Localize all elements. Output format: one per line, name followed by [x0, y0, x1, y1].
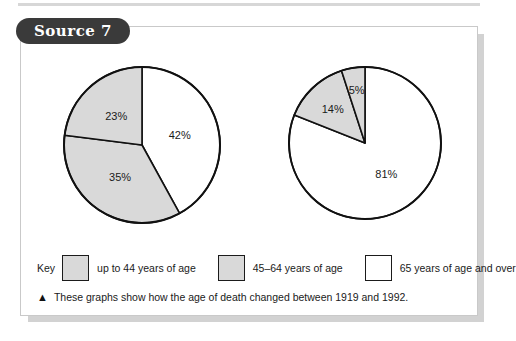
source-panel: 42%35%23% 81%14%5% Key up to 44 years of…	[20, 26, 478, 316]
top-rule	[18, 3, 480, 6]
pie-chart-1992: 81%14%5%	[287, 65, 443, 221]
legend-label-up-to-44: up to 44 years of age	[97, 262, 196, 274]
pie-charts-container: 42%35%23% 81%14%5%	[21, 27, 479, 242]
legend-item-65-and-over: 65 years of age and over	[365, 255, 516, 281]
legend-swatch-65-and-over	[365, 255, 392, 281]
pie-slice-label: 35%	[109, 171, 131, 183]
legend-title: Key	[37, 262, 55, 274]
legend-swatch-up-to-44	[62, 255, 89, 281]
pie-slice-label: 81%	[375, 168, 397, 180]
legend-swatch-45-64	[218, 255, 245, 281]
caption-text: These graphs show how the age of death c…	[54, 291, 408, 303]
pie-slice	[65, 67, 142, 145]
legend-item-up-to-44: up to 44 years of age	[62, 255, 196, 281]
legend-label-45-64: 45–64 years of age	[253, 262, 343, 274]
pie-slice-label: 5%	[349, 84, 365, 96]
pie-slice-label: 23%	[105, 110, 127, 122]
caption: ▲ These graphs show how the age of death…	[37, 291, 408, 303]
pie-slice-label: 14%	[322, 103, 344, 115]
source-badge: Source 7	[16, 18, 130, 44]
pie-svg	[287, 65, 443, 221]
pie-svg	[62, 65, 222, 225]
panel-shadow-bottom	[28, 316, 484, 322]
caption-triangle-icon: ▲	[37, 292, 48, 303]
pie-slice-label: 42%	[169, 129, 191, 141]
legend-item-45-64: 45–64 years of age	[218, 255, 343, 281]
legend: Key up to 44 years of age 45–64 years of…	[37, 249, 467, 287]
pie-chart-1919: 42%35%23%	[62, 65, 222, 225]
legend-label-65-and-over: 65 years of age and over	[400, 262, 516, 274]
